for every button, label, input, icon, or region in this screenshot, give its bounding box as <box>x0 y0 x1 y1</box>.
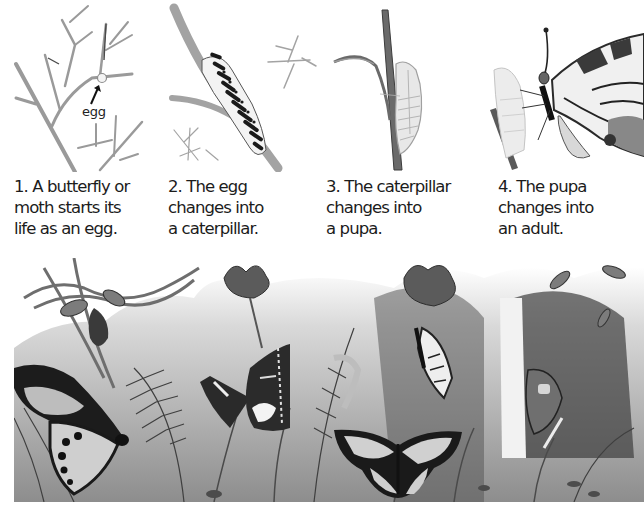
stage-4-caption: 4. The pupa changes into an adult. <box>498 176 593 239</box>
egg-on-twig-drawing <box>0 0 160 172</box>
stage-2-illustration <box>160 0 330 172</box>
egg-dot <box>98 74 107 83</box>
waterfall <box>500 298 526 458</box>
stage-4-illustration <box>480 0 644 172</box>
adult-wing <box>552 34 644 158</box>
caterpillar-on-stem-drawing <box>160 0 330 172</box>
stage-2-caption: 2. The egg changes into a caterpillar. <box>168 176 263 239</box>
hanging-pupa <box>89 308 109 346</box>
egg-annotation: egg <box>82 104 106 119</box>
stage-1-illustration: egg <box>0 0 160 172</box>
pupa-on-stem-drawing <box>330 0 490 172</box>
stage-1-caption: 1. A butterfly or moth starts its life a… <box>14 176 129 239</box>
pupa-body <box>380 62 422 154</box>
stage-3-illustration <box>330 0 490 172</box>
jungle-scene-illustration <box>14 258 644 502</box>
stage-3-caption: 3. The caterpillar changes into a pupa. <box>326 176 450 239</box>
adult-emerging-drawing <box>480 0 644 172</box>
arrow-icon <box>91 88 98 104</box>
jungle-scene-drawing <box>14 258 644 502</box>
